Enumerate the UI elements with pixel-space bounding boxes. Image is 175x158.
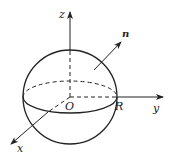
radius-label: R <box>114 100 123 113</box>
z-axis-label: z <box>58 8 65 21</box>
normal-vector-label: n <box>122 28 129 39</box>
normal-vector-n <box>94 42 121 70</box>
y-axis-label: y <box>152 102 160 115</box>
sphere-diagram: z y x O R n <box>0 0 175 158</box>
x-axis-label: x <box>17 142 24 155</box>
x-axis <box>11 112 48 144</box>
origin-label: O <box>65 100 74 113</box>
